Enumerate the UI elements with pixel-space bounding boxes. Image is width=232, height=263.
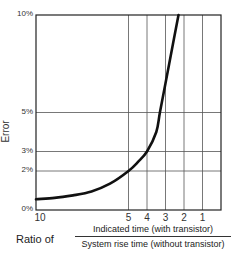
x-axis-label-numerator: Indicated time (with transistor): [75, 224, 231, 237]
y-tick-label: 2%: [9, 165, 33, 174]
y-tick-label: 10%: [9, 9, 33, 18]
x-tick-label: 5: [123, 212, 135, 223]
x-tick-label: 2: [178, 212, 190, 223]
error-curve: [36, 15, 179, 199]
x-axis-label-denominator: System rise time (without transistor): [75, 237, 231, 249]
y-tick-label: 3%: [9, 146, 33, 155]
x-tick-label: 3: [160, 212, 172, 223]
x-tick-label: 4: [141, 212, 153, 223]
x-axis-label-fraction: Indicated time (with transistor) System …: [75, 224, 231, 249]
y-axis-label: Error: [0, 120, 11, 142]
x-tick-label: 10: [34, 212, 46, 223]
x-tick-label: 1: [197, 212, 209, 223]
x-axis-label-prefix: Ratio of: [16, 233, 54, 245]
grid-lines: [36, 15, 221, 210]
y-tick-label: 5%: [9, 107, 33, 116]
y-tick-label: 0%: [9, 204, 33, 213]
